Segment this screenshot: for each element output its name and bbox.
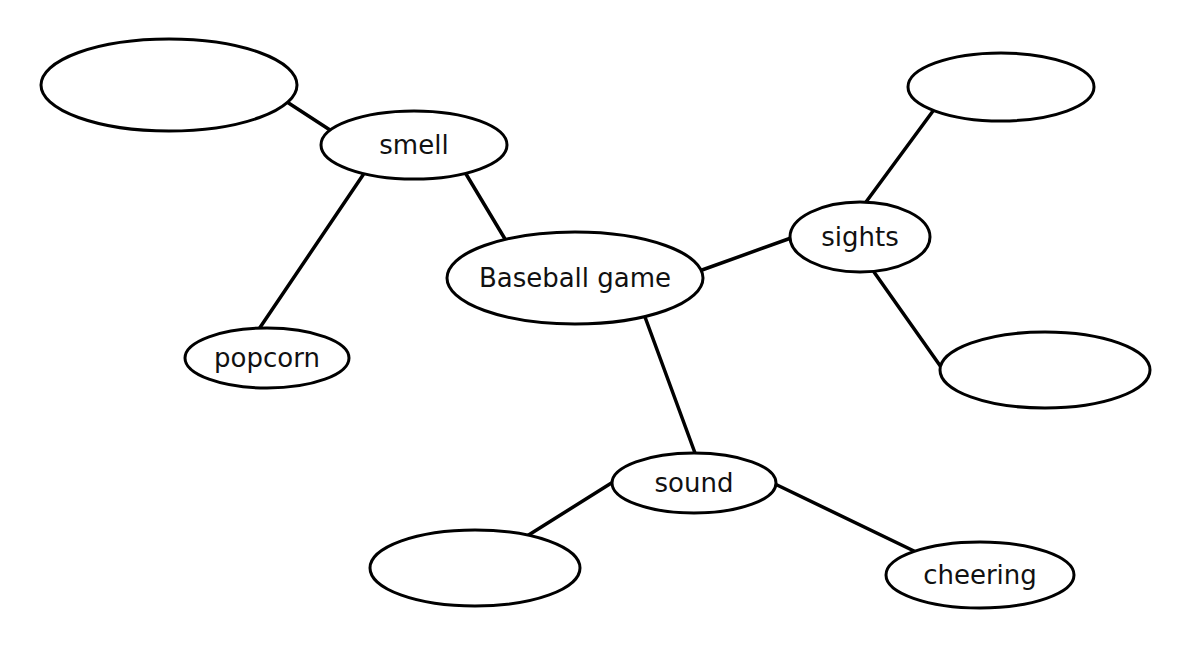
web-organizer-diagram: Baseball gamesmellsightssoundpopcornchee… (0, 0, 1182, 647)
node-label: smell (379, 130, 448, 160)
blank-node-sights-blank-bottom[interactable] (940, 332, 1150, 408)
node-popcorn: popcorn (185, 328, 349, 388)
edge-center-to-sound (645, 317, 695, 453)
nodes: Baseball gamesmellsightssoundpopcornchee… (41, 39, 1150, 608)
edge-sound-to-cheering (775, 484, 914, 551)
blank-node-sights-blank-top[interactable] (908, 53, 1094, 121)
edge-sights-to-sights-blank-bottom (874, 272, 941, 367)
edge-sound-to-sound-blank (527, 482, 613, 536)
blank-node-sound-blank[interactable] (370, 530, 580, 606)
node-label: sound (655, 468, 734, 498)
empty-ellipse[interactable] (370, 530, 580, 606)
node-smell: smell (321, 111, 507, 179)
node-label: Baseball game (479, 263, 671, 293)
edge-smell-to-popcorn (259, 175, 363, 329)
empty-ellipse[interactable] (41, 39, 297, 131)
node-sights: sights (790, 202, 930, 272)
node-label: cheering (923, 560, 1037, 590)
blank-node-smell-blank[interactable] (41, 39, 297, 131)
edge-smell-to-center (466, 174, 505, 239)
edge-center-to-sights (702, 238, 791, 270)
node-cheering: cheering (886, 542, 1074, 608)
node-center: Baseball game (447, 232, 703, 324)
edge-sights-to-sights-blank-top (866, 111, 933, 202)
node-label: popcorn (214, 343, 320, 373)
node-label: sights (821, 222, 899, 252)
empty-ellipse[interactable] (940, 332, 1150, 408)
node-sound: sound (612, 453, 776, 513)
empty-ellipse[interactable] (908, 53, 1094, 121)
edge-smell-blank-to-smell (287, 102, 330, 130)
